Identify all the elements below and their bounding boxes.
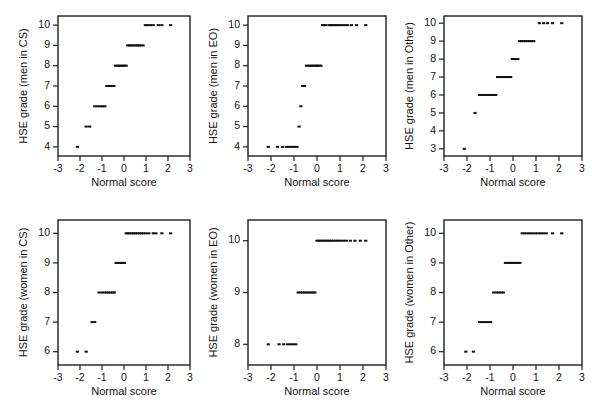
data-point [297, 126, 300, 128]
data-point [532, 40, 535, 42]
x-tick-label: 2 [165, 371, 171, 383]
data-point [160, 232, 163, 234]
data-point [267, 146, 270, 148]
y-tick-label: 10 [424, 226, 436, 238]
data-point [473, 112, 476, 114]
x-tick-label: 1 [337, 371, 343, 383]
data-point [277, 343, 280, 345]
y-tick-label: 10 [38, 18, 50, 30]
data-point [551, 232, 554, 234]
x-tick-label: -3 [439, 162, 448, 174]
y-axis: 8910 [228, 233, 248, 349]
data-point [531, 232, 534, 234]
y-tick-label: 3 [430, 142, 436, 154]
y-tick-label: 9 [430, 34, 436, 46]
chart-panel-men-in-other: -3-2-10123345678910Normal scoreHSE grade… [396, 4, 592, 204]
x-axis-label: Normal score [91, 385, 156, 397]
x-tick-label: 3 [383, 371, 389, 383]
y-tick-label: 7 [430, 70, 436, 82]
x-tick-label: -2 [266, 162, 275, 174]
data-series [267, 240, 368, 346]
data-point [484, 321, 487, 323]
x-axis: -3-2-10123 [439, 365, 585, 383]
data-point [282, 343, 285, 345]
data-point [267, 343, 270, 345]
data-point [349, 240, 352, 242]
x-tick-label: 0 [121, 371, 127, 383]
data-point [88, 126, 91, 128]
x-axis: -3-2-10123 [243, 365, 389, 383]
x-axis: -3-2-10123 [53, 365, 193, 383]
data-point [516, 58, 519, 60]
x-tick-label: -2 [462, 371, 471, 383]
y-tick-label: 8 [430, 285, 436, 297]
x-axis-label: Normal score [480, 385, 545, 397]
x-axis: -3-2-10123 [243, 156, 389, 174]
y-tick-label: 8 [430, 52, 436, 64]
y-tick-label: 5 [234, 119, 240, 131]
x-tick-label: -1 [289, 162, 298, 174]
x-tick-label: 2 [360, 371, 366, 383]
data-series [267, 24, 368, 148]
y-tick-label: 8 [234, 337, 240, 349]
y-tick-label: 4 [44, 140, 50, 152]
x-tick-label: 1 [337, 162, 343, 174]
data-point [112, 85, 115, 87]
y-tick-label: 8 [44, 285, 50, 297]
y-tick-label: 8 [234, 58, 240, 70]
y-tick-label: 9 [430, 256, 436, 268]
data-point [154, 232, 157, 234]
chart-panel-women-in-cs: -3-2-10123678910Normal scoreHSE grade (w… [10, 208, 200, 413]
y-tick-label: 4 [234, 140, 240, 152]
data-point [152, 24, 155, 26]
data-point [494, 94, 497, 96]
x-tick-label: 2 [360, 162, 366, 174]
x-tick-label: -1 [485, 371, 494, 383]
data-point [144, 232, 147, 234]
data-point [299, 105, 302, 107]
data-point [528, 232, 531, 234]
y-tick-label: 7 [44, 79, 50, 91]
data-point [464, 351, 467, 353]
x-tick-label: -3 [243, 371, 252, 383]
data-point [93, 321, 96, 323]
x-tick-label: 3 [383, 162, 389, 174]
data-point [286, 343, 289, 345]
data-point [509, 76, 512, 78]
y-tick-label: 6 [234, 99, 240, 111]
plot-frame [58, 16, 190, 156]
data-point [319, 65, 322, 67]
data-point [303, 85, 306, 87]
data-point [76, 351, 79, 353]
y-tick-label: 5 [430, 106, 436, 118]
data-point [123, 262, 126, 264]
x-tick-label: -3 [53, 371, 62, 383]
data-point [350, 24, 353, 26]
plot-frame [248, 16, 386, 156]
y-tick-label: 10 [228, 233, 240, 245]
y-tick-label: 5 [44, 119, 50, 131]
data-point [103, 105, 106, 107]
data-point [353, 240, 356, 242]
data-point [359, 240, 362, 242]
plot-frame [444, 16, 582, 156]
x-tick-label: 0 [314, 162, 320, 174]
y-tick-label: 10 [424, 16, 436, 28]
figure-panel-grid: -3-2-1012345678910Normal scoreHSE grade … [0, 0, 592, 413]
x-tick-label: 2 [556, 371, 562, 383]
x-tick-label: -3 [53, 162, 62, 174]
data-point [113, 292, 116, 294]
plot-frame [58, 220, 190, 365]
x-tick-label: 2 [556, 162, 562, 174]
x-tick-label: 3 [579, 371, 585, 383]
data-point [545, 232, 548, 234]
y-axis-label: HSE grade (women in EO) [207, 227, 219, 357]
y-axis-label: HSE grade (men in Other) [403, 22, 415, 150]
data-point [76, 146, 79, 148]
x-tick-label: 0 [510, 162, 516, 174]
y-tick-label: 7 [430, 315, 436, 327]
x-tick-label: 0 [510, 371, 516, 383]
data-point [324, 24, 327, 26]
x-tick-label: -2 [462, 162, 471, 174]
x-tick-label: 3 [187, 371, 193, 383]
